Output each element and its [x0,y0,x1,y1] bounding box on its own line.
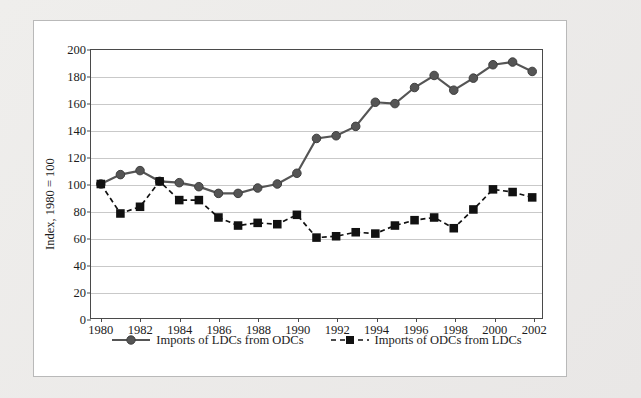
x-tick-mark [101,318,102,322]
data-point-circle [312,134,321,143]
data-point-square [351,228,360,237]
x-tick-mark [495,318,496,322]
data-point-circle [234,189,243,198]
series-square [97,177,537,242]
data-point-circle [410,83,419,92]
data-point-square [293,211,302,220]
data-point-square [116,209,125,218]
data-point-circle [116,170,125,179]
legend-entry-imports-odcs-from-ldcs: Imports of ODCs from LDCs [330,334,522,347]
data-point-circle [430,71,439,80]
data-point-circle [489,60,498,69]
y-tick-label: 160 [67,98,86,111]
y-tick-label: 140 [67,125,86,138]
series-line [101,62,532,193]
data-point-square [155,177,164,186]
data-point-circle [391,99,400,108]
data-point-circle [293,169,302,178]
x-tick-mark [337,318,338,322]
data-point-circle [371,98,380,107]
figure-panel: Index, 1980 = 100 0204060801001201401601… [33,20,567,377]
data-point-square [273,220,282,229]
y-tick-label: 60 [74,233,87,246]
circle-solid-line-marker-icon [111,334,151,346]
x-tick-mark [219,318,220,322]
data-point-square [175,196,184,205]
legend-label-1: Imports of ODCs from LDCs [375,334,522,347]
data-point-square [371,229,380,238]
series-line [101,181,532,237]
data-point-square [391,221,400,230]
x-tick-mark [377,318,378,322]
data-point-circle [253,184,262,193]
data-point-circle [351,122,360,131]
x-tick-mark [258,318,259,322]
page-canvas: Index, 1980 = 100 0204060801001201401601… [0,0,641,398]
data-point-circle [508,58,517,67]
data-point-circle [195,182,204,191]
chart-legend: Imports of LDCs from ODCs Imports of ODC… [90,334,543,347]
data-point-square [195,196,204,205]
data-point-circle [136,166,145,175]
data-point-square [253,219,262,228]
y-axis-label: Index, 1980 = 100 [42,69,58,339]
data-point-square [528,193,537,202]
data-point-circle [528,67,537,76]
data-point-square [489,185,498,194]
x-tick-mark [416,318,417,322]
data-point-square [430,213,439,222]
data-point-square [508,188,517,197]
data-point-square [136,203,145,212]
data-point-square [312,233,321,242]
data-point-square [449,224,458,233]
y-tick-label: 0 [80,314,86,327]
y-tick-label: 180 [67,71,86,84]
data-point-square [469,205,478,214]
series-circle [97,58,537,198]
data-point-circle [449,86,458,95]
x-tick-mark [140,318,141,322]
y-tick-label: 20 [74,287,87,300]
data-point-square [214,213,223,222]
data-point-circle [175,178,184,187]
series-plot [91,50,542,318]
x-tick-mark [298,318,299,322]
data-point-circle [214,189,223,198]
legend-label-0: Imports of LDCs from ODCs [156,334,303,347]
data-point-square [234,221,243,230]
data-point-square [410,216,419,225]
y-tick-label: 120 [67,152,86,165]
y-tick-label: 40 [74,260,87,273]
x-tick-mark [534,318,535,322]
y-tick-label: 80 [74,206,87,219]
data-point-circle [332,131,341,140]
x-tick-mark [455,318,456,322]
legend-entry-imports-ldcs-from-odcs: Imports of LDCs from ODCs [111,334,303,347]
data-point-circle [273,180,282,189]
data-point-circle [469,74,478,83]
data-point-square [97,180,106,189]
x-tick-mark [180,318,181,322]
y-tick-mark [87,320,91,321]
data-point-square [332,232,341,241]
plot-area: 020406080100120140160180200 198019821984… [90,49,543,319]
y-tick-label: 100 [67,179,86,192]
square-dashed-line-marker-icon [330,334,370,346]
y-tick-label: 200 [67,44,86,57]
